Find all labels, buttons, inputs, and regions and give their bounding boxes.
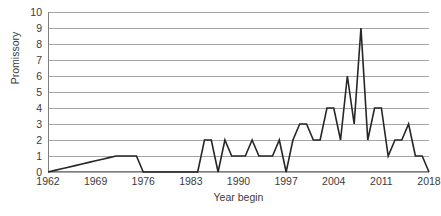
y-axis-tick-label: 2 — [12, 135, 42, 145]
x-axis-tick-label: 1990 — [227, 175, 250, 187]
x-axis-tick-label: 2004 — [322, 175, 345, 187]
x-axis-tick-label: 1976 — [132, 175, 155, 187]
y-axis-tick-label: 1 — [12, 151, 42, 161]
x-axis-tick-label: 1969 — [84, 175, 107, 187]
x-axis-tick-labels: 196219691976198319901997200420112018 — [48, 175, 429, 191]
x-axis-tick-label: 2011 — [370, 175, 393, 187]
y-axis-title: Promissory — [9, 10, 21, 106]
x-axis-tick-label: 1997 — [274, 175, 297, 187]
x-axis-tick-label: 1983 — [179, 175, 202, 187]
x-axis-tick-label: 1962 — [36, 175, 59, 187]
series-line-promissory — [48, 28, 429, 172]
x-axis-title: Year begin — [48, 191, 429, 203]
series-layer — [48, 12, 429, 172]
gridline — [48, 172, 429, 173]
plot-area — [48, 12, 429, 172]
x-axis-tick-label: 2018 — [417, 175, 440, 187]
y-axis-tick-label: 3 — [12, 119, 42, 129]
